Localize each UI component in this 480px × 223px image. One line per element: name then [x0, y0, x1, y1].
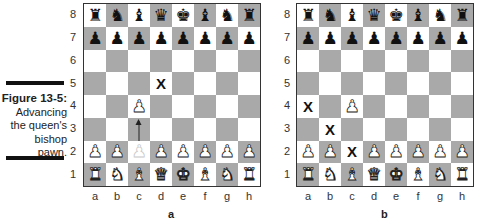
- square-f2: ♟: [407, 141, 429, 164]
- square-a1: ♜: [84, 163, 106, 186]
- black-pawn-icon: ♟: [87, 30, 102, 47]
- white-pawn-icon: ♟: [432, 143, 447, 160]
- square-g2: ♟: [429, 141, 451, 164]
- black-pawn-icon: ♟: [109, 30, 124, 47]
- black-queen-icon: ♛: [366, 7, 381, 24]
- black-pawn-icon: ♟: [219, 30, 234, 47]
- white-knight-icon: ♞: [219, 166, 234, 183]
- square-d7: ♟: [363, 27, 385, 50]
- black-pawn-icon: ♟: [432, 30, 447, 47]
- square-a5: [84, 72, 106, 95]
- file-label: c: [128, 190, 150, 202]
- square-e4: [172, 95, 194, 118]
- white-pawn-icon: ♟: [87, 143, 102, 160]
- square-h8: ♜: [451, 4, 473, 27]
- square-g8: ♞: [429, 4, 451, 27]
- file-labels-a: abcdefgh: [84, 190, 260, 202]
- caption-line: the queen's: [0, 119, 67, 133]
- black-bishop-icon: ♝: [131, 7, 146, 24]
- chessboard-b: ♜♞♝♛♚♝♞♜♟♟♟♟♟♟♟♟X♟X♟♟X♟♟♟♟♟♜♞♝♛♚♝♞♜: [296, 3, 474, 187]
- square-e3: [385, 118, 407, 141]
- square-f5: [407, 72, 429, 95]
- target-x-mark: X: [156, 76, 166, 91]
- square-h1: ♜: [451, 163, 473, 186]
- square-d4: [150, 95, 172, 118]
- black-queen-icon: ♛: [153, 7, 168, 24]
- square-g5: [216, 72, 238, 95]
- square-e6: [172, 50, 194, 73]
- square-b7: ♟: [106, 27, 128, 50]
- white-pawn-icon: ♟: [153, 143, 168, 160]
- square-a6: [84, 50, 106, 73]
- square-d3: [363, 118, 385, 141]
- square-a8: ♜: [84, 4, 106, 27]
- square-g6: [216, 50, 238, 73]
- rank-label: 2: [281, 140, 293, 163]
- white-pawn-icon: ♟: [131, 143, 146, 160]
- square-b8: ♞: [319, 4, 341, 27]
- square-e4: [385, 95, 407, 118]
- square-g5: [429, 72, 451, 95]
- square-g7: ♟: [429, 27, 451, 50]
- square-f7: ♟: [194, 27, 216, 50]
- rank-label: 3: [281, 117, 293, 140]
- white-rook-icon: ♜: [87, 166, 102, 183]
- square-e5: [385, 72, 407, 95]
- square-b6: [319, 50, 341, 73]
- file-label: g: [429, 190, 451, 202]
- square-b5: [106, 72, 128, 95]
- square-h6: [238, 50, 260, 73]
- square-a2: ♟: [297, 141, 319, 164]
- square-e1: ♚: [385, 163, 407, 186]
- square-e3: [172, 118, 194, 141]
- square-e6: [385, 50, 407, 73]
- square-f1: ♝: [194, 163, 216, 186]
- white-pawn-icon: ♟: [388, 143, 403, 160]
- square-d6: [150, 50, 172, 73]
- white-pawn-icon: ♟: [241, 143, 256, 160]
- square-e2: ♟: [385, 141, 407, 164]
- board-label-b: b: [381, 208, 388, 220]
- square-b7: ♟: [319, 27, 341, 50]
- black-pawn-icon: ♟: [300, 30, 315, 47]
- rank-label: 5: [281, 71, 293, 94]
- square-c4: ♟: [128, 95, 150, 118]
- black-knight-icon: ♞: [109, 7, 124, 24]
- square-a3: [84, 118, 106, 141]
- black-pawn-icon: ♟: [344, 30, 359, 47]
- black-knight-icon: ♞: [219, 7, 234, 24]
- square-e8: ♚: [385, 4, 407, 27]
- file-label: b: [106, 190, 128, 202]
- square-d3: [150, 118, 172, 141]
- square-e7: ♟: [172, 27, 194, 50]
- square-c4: ♟: [341, 95, 363, 118]
- white-queen-icon: ♛: [366, 166, 381, 183]
- black-pawn-icon: ♟: [197, 30, 212, 47]
- white-king-icon: ♚: [175, 166, 190, 183]
- square-h7: ♟: [451, 27, 473, 50]
- square-d4: [363, 95, 385, 118]
- white-pawn-icon: ♟: [219, 143, 234, 160]
- black-pawn-icon: ♟: [388, 30, 403, 47]
- file-label: f: [407, 190, 429, 202]
- file-label: a: [297, 190, 319, 202]
- rank-label: 7: [281, 26, 293, 49]
- square-c2: ♟: [128, 141, 150, 164]
- square-f4: [194, 95, 216, 118]
- caption-bottom-rule: [6, 156, 64, 160]
- square-h2: ♟: [238, 141, 260, 164]
- square-g1: ♞: [216, 163, 238, 186]
- rank-label: 5: [67, 71, 79, 94]
- square-b5: [319, 72, 341, 95]
- square-f4: [407, 95, 429, 118]
- white-pawn-icon: ♟: [109, 143, 124, 160]
- square-d1: ♛: [363, 163, 385, 186]
- square-e7: ♟: [385, 27, 407, 50]
- black-rook-icon: ♜: [454, 7, 469, 24]
- square-d5: X: [150, 72, 172, 95]
- square-a7: ♟: [84, 27, 106, 50]
- square-h2: ♟: [451, 141, 473, 164]
- white-knight-icon: ♞: [322, 166, 337, 183]
- square-c6: [128, 50, 150, 73]
- square-a6: [297, 50, 319, 73]
